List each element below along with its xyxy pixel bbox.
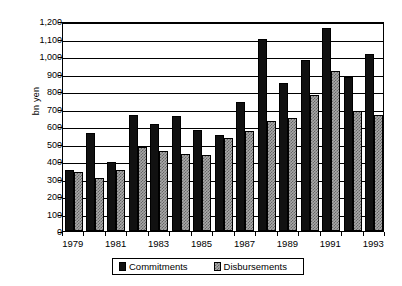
bar-group: [256, 23, 277, 231]
legend-label-disbursements: Disbursements: [224, 261, 287, 272]
legend-swatch-disbursements-icon: [214, 262, 221, 271]
x-axis-tick-mark: [277, 232, 278, 236]
x-axis-tick-mark: [62, 232, 63, 236]
bar-disbursements-1984: [181, 154, 190, 231]
y-axis-tick-label: 1,200: [28, 18, 62, 27]
legend-entry-commitments: Commitments: [119, 261, 188, 272]
legend-entry-disbursements: Disbursements: [214, 261, 287, 272]
bar-commitments-1984: [172, 116, 181, 231]
bar-disbursements-1989: [288, 118, 297, 231]
bar-commitments-1980: [86, 133, 95, 231]
bar-disbursements-1981: [116, 170, 125, 231]
y-axis-tick-label: 1,000: [28, 53, 62, 62]
x-axis-tick-label: 1991: [310, 238, 350, 249]
x-axis-tick-mark: [341, 232, 342, 236]
bar-group: [84, 23, 105, 231]
bar-commitments-1991: [322, 28, 331, 231]
y-axis-tick-label: 100: [28, 211, 62, 220]
y-axis-tick-label: 0: [28, 228, 62, 237]
x-axis-tick-label: 1981: [96, 238, 136, 249]
bar-group: [170, 23, 191, 231]
bar-commitments-1981: [107, 162, 116, 231]
y-axis-tick-label: 200: [28, 193, 62, 202]
x-axis-tick-mark: [212, 232, 213, 236]
x-axis-tick-mark: [298, 232, 299, 236]
legend-label-commitments: Commitments: [129, 261, 188, 272]
x-axis-tick-label: 1985: [182, 238, 222, 249]
x-axis-tick-label: 1987: [224, 238, 264, 249]
bar-commitments-1982: [129, 115, 138, 231]
x-axis-tick-mark: [169, 232, 170, 236]
bar-disbursements-1992: [353, 111, 362, 231]
bar-group: [127, 23, 148, 231]
bar-group: [278, 23, 299, 231]
y-axis-tick-label: 600: [28, 123, 62, 132]
bar-commitments-1989: [279, 83, 288, 231]
y-axis-tick-label: 700: [28, 106, 62, 115]
bar-disbursements-1993: [374, 115, 383, 231]
bar-disbursements-1980: [95, 178, 104, 231]
bar-commitments-1985: [193, 130, 202, 232]
bar-group: [192, 23, 213, 231]
x-axis-tick-label: 1989: [267, 238, 307, 249]
bar-group: [342, 23, 363, 231]
y-axis-tick-label: 500: [28, 141, 62, 150]
bar-disbursements-1991: [331, 71, 340, 231]
bar-chart: bn yen 01002003004005006007008009001,000…: [0, 0, 402, 286]
bar-commitments-1993: [365, 54, 374, 231]
bar-disbursements-1982: [138, 147, 147, 231]
y-axis-tick-label: 300: [28, 176, 62, 185]
x-axis-tick-mark: [363, 232, 364, 236]
bar-group: [299, 23, 320, 231]
x-axis-tick-mark: [384, 232, 385, 236]
bar-group: [235, 23, 256, 231]
bar-commitments-1992: [344, 77, 353, 231]
bar-group: [321, 23, 342, 231]
bar-group: [213, 23, 234, 231]
x-axis-tick-mark: [105, 232, 106, 236]
bar-disbursements-1990: [310, 95, 319, 231]
legend-swatch-commitments-icon: [119, 262, 126, 271]
bar-disbursements-1988: [267, 121, 276, 231]
x-axis-tick-mark: [83, 232, 84, 236]
bar-commitments-1986: [215, 135, 224, 231]
bar-disbursements-1986: [224, 138, 233, 231]
bar-group: [364, 23, 385, 231]
x-axis-tick-mark: [126, 232, 127, 236]
y-axis-tick-label: 1,100: [28, 36, 62, 45]
x-axis-tick-mark: [191, 232, 192, 236]
bar-commitments-1987: [236, 102, 245, 232]
bar-commitments-1988: [258, 39, 267, 232]
bar-commitments-1983: [150, 124, 159, 231]
x-axis-tick-mark: [320, 232, 321, 236]
plot-area: [62, 22, 384, 232]
y-axis-title: bn yen: [31, 71, 41, 131]
bar-disbursements-1987: [245, 131, 254, 231]
x-axis-tick-mark: [255, 232, 256, 236]
bar-disbursements-1979: [74, 172, 83, 232]
bar-group: [149, 23, 170, 231]
bar-commitments-1990: [301, 60, 310, 231]
bar-disbursements-1983: [159, 151, 168, 231]
bar-group: [63, 23, 84, 231]
y-axis-tick-label: 800: [28, 88, 62, 97]
bar-disbursements-1985: [202, 155, 211, 231]
x-axis-tick-label: 1983: [139, 238, 179, 249]
x-axis-tick-mark: [148, 232, 149, 236]
y-axis-tick-label: 900: [28, 71, 62, 80]
x-axis-tick-label: 1993: [353, 238, 393, 249]
y-axis-tick-label: 400: [28, 158, 62, 167]
x-axis-tick-label: 1979: [53, 238, 93, 249]
x-axis-tick-mark: [234, 232, 235, 236]
bar-group: [106, 23, 127, 231]
bar-commitments-1979: [65, 170, 74, 231]
chart-legend: Commitments Disbursements: [112, 258, 304, 275]
